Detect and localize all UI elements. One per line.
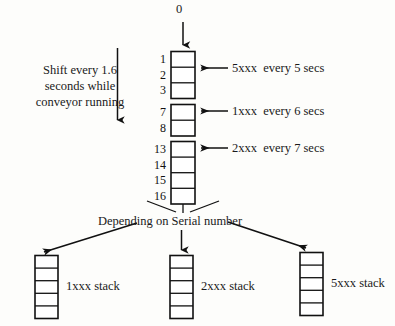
- cell-number-14: 14: [140, 158, 166, 173]
- cell-number-8: 8: [144, 121, 166, 136]
- stack-label-1xxx: 1xxx stack: [66, 279, 120, 294]
- cell-number-2: 2: [144, 68, 166, 83]
- shift-note-line-2: seconds while: [14, 78, 146, 94]
- stack-box-2xxx: [170, 256, 193, 319]
- column-group-1: [171, 52, 195, 99]
- feed-label-1xxx: 1xxx every 6 secs: [232, 104, 324, 119]
- cell-number-3: 3: [144, 83, 166, 98]
- stack-box-5xxx: [300, 253, 323, 316]
- column-group-2: [171, 105, 195, 137]
- shift-note-line-1: Shift every 1.6: [14, 62, 146, 78]
- column-group-3: [171, 142, 195, 205]
- cell-number-15: 15: [140, 173, 166, 188]
- stack-label-5xxx: 5xxx stack: [331, 276, 385, 291]
- feed-label-5xxx: 5xxx every 5 secs: [232, 61, 324, 76]
- branch-note: Depending on Serial number: [98, 214, 242, 229]
- stack-label-2xxx: 2xxx stack: [201, 279, 255, 294]
- top-input-label: 0: [176, 2, 182, 17]
- cell-number-13: 13: [140, 142, 166, 157]
- shift-note-line-3: conveyor running: [14, 94, 146, 110]
- cell-number-7: 7: [144, 105, 166, 120]
- cell-number-16: 16: [140, 189, 166, 204]
- stack-box-1xxx: [35, 256, 58, 319]
- conveyor-sorting-diagram: 0 Shift every 1.6 seconds while conveyor…: [0, 0, 395, 326]
- cell-number-1: 1: [144, 52, 166, 67]
- feed-label-2xxx: 2xxx every 7 secs: [232, 141, 324, 156]
